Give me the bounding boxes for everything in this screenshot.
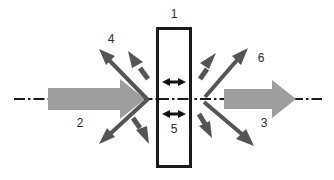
label-internal-oscillation: 5 [171, 122, 178, 136]
label-back-scatter-up: 4 [108, 32, 115, 46]
label-plate: 1 [171, 7, 178, 21]
plate-rectangle [158, 29, 191, 167]
beam-splitter-diagram: 1 2 3 4 5 6 [0, 0, 334, 180]
label-incident-beam: 2 [77, 116, 84, 130]
figure-canvas: 1 2 3 4 5 6 [0, 0, 334, 180]
label-transmitted-beam: 3 [261, 116, 268, 130]
label-forward-scatter-up: 6 [258, 51, 265, 65]
